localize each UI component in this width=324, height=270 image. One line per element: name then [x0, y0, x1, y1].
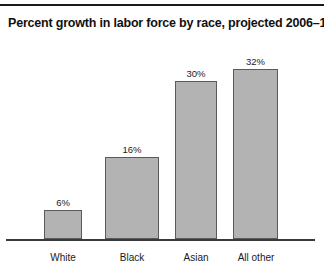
bar-group-white: 6% — [44, 210, 82, 239]
x-tick-label-white: White — [44, 252, 82, 264]
bar-group-black: 16% — [105, 157, 159, 239]
bar-value-black: 16% — [122, 144, 141, 155]
bar-group-asian: 30% — [175, 81, 217, 239]
bar-value-asian: 30% — [186, 68, 205, 79]
bar-white[interactable] — [44, 210, 82, 239]
bar-value-white: 6% — [56, 197, 70, 208]
bar-value-all-other: 32% — [246, 56, 265, 67]
chart-title: Percent growth in labor force by race, p… — [8, 16, 318, 31]
bar-black[interactable] — [105, 157, 159, 239]
x-tick-label-black: Black — [105, 252, 159, 264]
header-divider — [0, 4, 324, 6]
bar-asian[interactable] — [175, 81, 217, 239]
x-tick-label-asian: Asian — [175, 252, 217, 264]
chart-figure: Percent growth in labor force by race, p… — [0, 0, 324, 270]
bar-group-all-other: 32% — [233, 69, 278, 239]
x-tick-label-all-other: All other — [229, 252, 283, 264]
bar-all-other[interactable] — [233, 69, 278, 239]
plot-area: 6% 16% 30% 32% — [0, 40, 324, 240]
x-axis-line — [6, 239, 315, 241]
